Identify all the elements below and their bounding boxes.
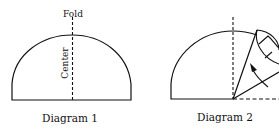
diagram-1: Fold Center Diagram 1 bbox=[12, 9, 131, 124]
diagram-2: Diagram 2 bbox=[171, 17, 279, 123]
fold-edge-line-upper bbox=[233, 30, 257, 99]
fold-edge-line-lower bbox=[233, 72, 279, 99]
arrow-head-icon bbox=[250, 63, 257, 72]
fold-direction-arrow-icon bbox=[253, 70, 268, 87]
folding-diagrams: Fold Center Diagram 1 Diagram 2 bbox=[0, 0, 279, 134]
diagram-1-caption: Diagram 1 bbox=[42, 112, 98, 124]
fold-label: Fold bbox=[63, 9, 83, 19]
half-circle-shape bbox=[12, 35, 131, 100]
folded-flap-curl bbox=[256, 30, 279, 64]
center-label: Center bbox=[60, 47, 70, 79]
left-half-shape bbox=[171, 31, 257, 99]
diagram-2-caption: Diagram 2 bbox=[197, 111, 253, 123]
